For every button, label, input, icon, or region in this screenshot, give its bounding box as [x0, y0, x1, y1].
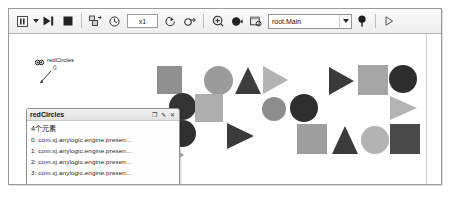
inspector-popup[interactable]: redCircles ❐ ✎ ✕ 4个元素 0: com.xj.anylogic…	[26, 108, 180, 184]
inspector-edit-button[interactable]: ✎	[159, 111, 167, 119]
shape-triangle-3[interactable]	[329, 67, 354, 95]
inspector-row-value: com.xj.anylogic.engine.presen...	[36, 158, 131, 165]
simulation-window: x1	[8, 8, 442, 185]
toolbar: x1	[9, 9, 441, 34]
stop-button[interactable]	[59, 13, 76, 30]
speed-input[interactable]: x1	[127, 14, 158, 28]
navigate-icon	[212, 15, 224, 27]
run-dropdown-arrow[interactable]	[32, 15, 39, 28]
shape-triangle-2[interactable]	[263, 66, 288, 94]
stop-square-icon	[63, 16, 73, 26]
inspector-row[interactable]: 2: com.xj.anylogic.engine.presen...	[31, 156, 179, 167]
annotation-label: redCircles	[47, 57, 74, 64]
chevron-down-icon	[343, 19, 349, 23]
shape-triangle-4[interactable]	[390, 96, 417, 120]
inspect-window-icon	[250, 16, 262, 27]
speed-up-icon	[165, 16, 176, 27]
pin-button[interactable]	[353, 13, 370, 30]
shape-square-2[interactable]	[358, 65, 388, 95]
shape-square-4[interactable]	[297, 124, 327, 154]
inspector-row-value: com.xj.anylogic.engine.presen...	[36, 136, 131, 143]
inspector-restore-button[interactable]: ❐	[150, 111, 158, 119]
inspector-list[interactable]: 0: com.xj.anylogic.engine.presen...1: co…	[27, 134, 179, 178]
root-selector-arrow[interactable]	[339, 15, 351, 28]
run-slow-icon	[89, 15, 102, 27]
annotation-leader-line	[39, 70, 53, 84]
simulation-canvas[interactable]: redCircles () redCircles ❐ ✎ ✕ 4个元素 0: c…	[9, 34, 441, 184]
inspector-row-value: com.xj.anylogic.engine.presen...	[36, 169, 131, 176]
shape-triangle-5[interactable]	[227, 123, 254, 149]
clock-icon	[109, 16, 120, 27]
speed-down-button[interactable]	[181, 13, 198, 30]
filled-marker-icon	[231, 16, 243, 27]
toolbar-separator	[81, 14, 82, 28]
shape-square-1[interactable]	[157, 66, 182, 94]
root-selector-combo[interactable]: root.Main	[268, 14, 352, 29]
play-triangle-icon	[385, 16, 394, 26]
toolbar-separator-3	[375, 14, 376, 28]
inspector-count-label: 4个元素	[27, 121, 179, 134]
collection-icon	[35, 58, 46, 67]
inspector-row-value: com.xj.anylogic.engine.presen...	[36, 147, 131, 154]
inspector-close-button[interactable]: ✕	[168, 111, 176, 119]
navigate-button[interactable]	[209, 13, 226, 30]
shape-circle-4[interactable]	[262, 97, 286, 121]
shape-circle-5[interactable]	[290, 94, 318, 122]
shape-triangle-6[interactable]	[332, 126, 358, 154]
virtual-time-button[interactable]	[106, 13, 123, 30]
shape-circle-1[interactable]	[204, 66, 233, 95]
inspector-row[interactable]: 3: com.xj.anylogic.engine.presen...	[31, 167, 179, 178]
inspector-title: redCircles	[30, 111, 149, 118]
shape-square-5[interactable]	[390, 124, 420, 154]
inspector-row[interactable]: 0: com.xj.anylogic.engine.presen...	[31, 134, 179, 145]
annotation-text: redCircles ()	[47, 57, 74, 71]
shape-square-3[interactable]	[195, 94, 223, 122]
play-button[interactable]	[381, 13, 398, 30]
canvas-divider	[426, 34, 427, 184]
speed-up-button[interactable]	[162, 13, 179, 30]
inspector-anchor-arrow	[179, 152, 184, 158]
step-forward-icon	[43, 16, 54, 26]
speed-down-icon	[184, 16, 196, 27]
pause-button[interactable]	[14, 13, 31, 30]
marker-button[interactable]	[228, 13, 245, 30]
step-button[interactable]	[40, 13, 57, 30]
shape-circle-2[interactable]	[389, 65, 417, 93]
annotation-callout: redCircles ()	[35, 57, 74, 71]
chevron-down-icon	[33, 19, 39, 23]
shape-triangle-1[interactable]	[235, 67, 261, 94]
pause-icon	[17, 16, 28, 27]
pin-icon	[357, 15, 367, 27]
inspector-titlebar[interactable]: redCircles ❐ ✎ ✕	[27, 109, 179, 121]
inspector-row[interactable]: 1: com.xj.anylogic.engine.presen...	[31, 145, 179, 156]
inspect-button[interactable]	[247, 13, 264, 30]
shape-circle-7[interactable]	[361, 126, 389, 154]
root-selector-value: root.Main	[269, 18, 339, 25]
toolbar-separator-2	[203, 14, 204, 28]
run-slow-button[interactable]	[87, 13, 104, 30]
